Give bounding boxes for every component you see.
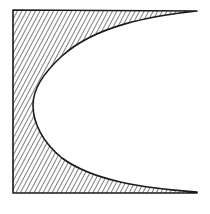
hatched-c-shape-drawing xyxy=(0,0,210,214)
diagram-canvas xyxy=(0,0,210,214)
hatched-region xyxy=(0,0,210,214)
